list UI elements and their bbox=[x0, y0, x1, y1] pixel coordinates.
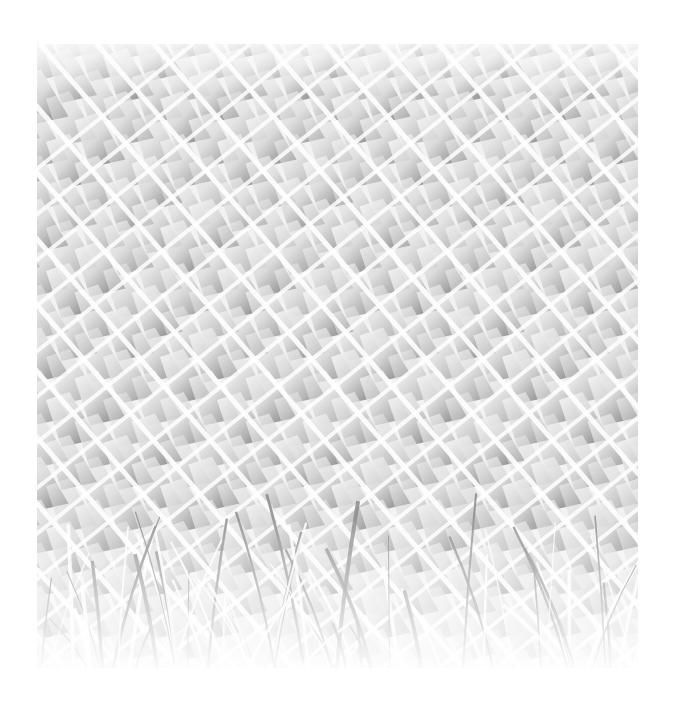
fence-lattice-graphic bbox=[37, 44, 638, 668]
fence-photo: Chain-link fence with grass bbox=[37, 44, 638, 668]
